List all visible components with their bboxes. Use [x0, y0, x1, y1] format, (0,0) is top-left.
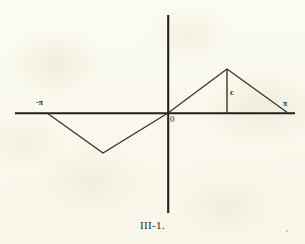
axis-label-origin: 0 — [170, 115, 175, 124]
triangular-wave-figure — [0, 0, 305, 244]
axis-label-pi: π — [283, 100, 287, 108]
figure-caption: III-1. — [0, 219, 305, 231]
axis-label-negative-pi: -π — [36, 99, 43, 107]
amplitude-label-c: c — [230, 88, 234, 97]
paper-speck — [286, 230, 288, 232]
figure-page: -π π 0 c III-1. — [0, 0, 305, 244]
